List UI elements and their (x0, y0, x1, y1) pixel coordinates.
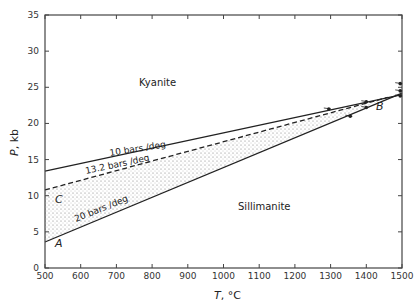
point-a-label: A (54, 237, 63, 250)
x-tick-label: 800 (144, 271, 161, 281)
y-tick-label: 10 (28, 191, 40, 201)
x-tick-label: 600 (72, 271, 89, 281)
x-axis-title: T, °C (214, 289, 241, 302)
pt-diagram: 5006007008009001000110012001300140015000… (0, 0, 416, 307)
point-b-label: B (376, 100, 384, 113)
x-tick-label: 1500 (391, 271, 414, 281)
kyanite-label: Kyanite (139, 77, 176, 88)
y-tick-label: 0 (33, 263, 39, 273)
x-tick-label: 1000 (212, 271, 235, 281)
x-tick-label: 1200 (283, 271, 306, 281)
x-tick-label: 1300 (319, 271, 342, 281)
y-tick-label: 30 (28, 46, 40, 56)
x-tick-label: 1100 (248, 271, 271, 281)
y-tick-label: 35 (28, 10, 39, 20)
point-c-label: C (55, 193, 63, 206)
x-tick-label: 1400 (355, 271, 378, 281)
y-tick-label: 5 (33, 227, 39, 237)
x-tick-label: 900 (179, 271, 196, 281)
sillimanite-label: Sillimanite (238, 201, 291, 212)
x-tick-label: 700 (108, 271, 125, 281)
y-tick-label: 15 (28, 155, 39, 165)
y-tick-label: 25 (28, 82, 39, 92)
y-axis-title: P, kb (8, 129, 21, 156)
x-tick-label: 500 (36, 271, 53, 281)
y-tick-label: 20 (28, 118, 40, 128)
